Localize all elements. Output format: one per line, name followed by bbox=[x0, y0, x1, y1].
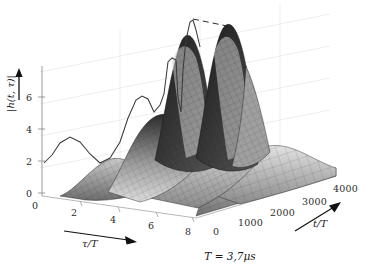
t-tick-4000: 4000 bbox=[333, 183, 358, 194]
horizontal-axis-label: t/T bbox=[313, 218, 327, 229]
t-tick-0: 0 bbox=[213, 226, 219, 237]
y-tick-0: 0 bbox=[26, 188, 32, 199]
tau-tick-4: 4 bbox=[110, 214, 116, 225]
tau-tick-8: 8 bbox=[185, 226, 191, 237]
figure-caption: T = 3,7μs bbox=[170, 250, 290, 262]
vertical-axis bbox=[38, 66, 45, 196]
t-tick-3000: 3000 bbox=[302, 196, 327, 207]
tau-tick-6: 6 bbox=[148, 220, 154, 231]
tau-tick-2: 2 bbox=[71, 207, 77, 218]
y-tick-6: 6 bbox=[26, 92, 32, 103]
vertical-axis-label: |h(t, τ)| bbox=[5, 70, 16, 118]
t-tick-2000: 2000 bbox=[270, 207, 295, 218]
t-tick-1000: 1000 bbox=[238, 217, 263, 228]
dashed-connector bbox=[193, 19, 232, 27]
tau-tick-0: 0 bbox=[32, 200, 38, 211]
y-tick-2: 2 bbox=[26, 156, 32, 167]
depth-axis-label: τ/T bbox=[82, 238, 98, 249]
channel-impulse-response-figure: 0 2 4 6 0 2 4 6 8 0 1000 2000 3000 4000 … bbox=[0, 0, 373, 276]
y-tick-4: 4 bbox=[26, 124, 32, 135]
